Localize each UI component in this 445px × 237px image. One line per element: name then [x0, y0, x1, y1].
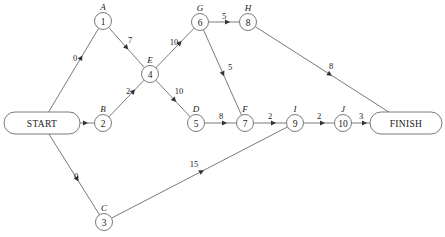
- edge-n7-to-n9: [254, 120, 287, 125]
- edge-weight-label: 10: [170, 37, 179, 47]
- node-number-label: 8: [246, 18, 251, 28]
- node-4[interactable]: 4E: [142, 55, 159, 83]
- edge-weight-label: 2: [317, 111, 321, 121]
- edge-n10-to-finish: [352, 120, 371, 125]
- node-number-label: 2: [101, 119, 106, 129]
- edge-n6-to-n7: [203, 30, 241, 115]
- edge-weight-label: 10: [175, 86, 184, 96]
- edge-weight-label: 2: [268, 111, 272, 121]
- edge-weight-label: 15: [190, 159, 199, 169]
- edge-start-to-n1: [48, 28, 98, 112]
- terminal-label: START: [27, 119, 57, 129]
- node-7[interactable]: 7F: [237, 104, 254, 132]
- arrow-head-icon: [320, 120, 325, 125]
- node-activity-letter: D: [192, 104, 200, 114]
- node-number-label: 7: [243, 119, 248, 129]
- node-activity-letter: B: [100, 104, 106, 114]
- arrow-head-icon: [326, 71, 332, 76]
- node-activity-letter: G: [197, 3, 204, 13]
- node-10[interactable]: 10J: [335, 104, 352, 132]
- edge-n4-to-n5: [156, 80, 190, 117]
- terminal-label: FINISH: [390, 119, 422, 129]
- node-activity-letter: C: [101, 203, 108, 213]
- edge-weight-label: 8: [219, 111, 223, 121]
- arrow-head-icon: [222, 120, 227, 125]
- node-number-label: 4: [148, 70, 153, 80]
- edge-n4-to-n6: [156, 28, 194, 68]
- arrow-head-icon: [362, 120, 367, 125]
- arrow-head-icon: [83, 120, 88, 125]
- node-number-label: 10: [338, 119, 348, 129]
- node-activity-letter: I: [293, 104, 298, 114]
- edge-n8-to-finish: [255, 27, 390, 114]
- node-5[interactable]: 5D: [188, 104, 205, 132]
- edge-line: [112, 127, 288, 218]
- node-1[interactable]: 1A: [95, 2, 112, 30]
- network-diagram-canvas: 000721010558223815 START1A2B3C4E5D6G7F8H…: [0, 0, 445, 237]
- node-activity-letter: E: [146, 55, 153, 65]
- node-number-label: 1: [101, 17, 106, 27]
- node-number-label: 9: [293, 119, 298, 129]
- node-number-label: 6: [198, 18, 203, 28]
- node-9[interactable]: 9I: [287, 104, 304, 132]
- arrow-head-icon: [271, 120, 276, 125]
- edge-n3-to-n9: [112, 127, 288, 218]
- node-2[interactable]: 2B: [95, 104, 112, 132]
- node-activity-letter: H: [244, 3, 252, 13]
- edge-weight-label: 7: [128, 35, 132, 45]
- edge-line: [255, 27, 390, 114]
- node-6[interactable]: 6G: [192, 3, 209, 31]
- node-activity-letter: J: [341, 104, 346, 114]
- edge-n1-to-n4: [109, 27, 145, 67]
- edge-weight-label: 2: [126, 86, 130, 96]
- node-3[interactable]: 3C: [96, 203, 113, 231]
- edge-line: [48, 28, 98, 112]
- edge-weight-label: 0: [73, 53, 77, 63]
- node-number-label: 5: [194, 119, 199, 129]
- edge-n5-to-n7: [205, 120, 237, 125]
- edge-start-to-n2: [80, 120, 95, 125]
- node-number-label: 3: [102, 218, 107, 228]
- edge-weight-label: 5: [228, 62, 232, 72]
- edge-weight-label: 8: [329, 61, 333, 71]
- node-finish[interactable]: FINISH: [370, 112, 442, 134]
- node-8[interactable]: 8H: [240, 3, 257, 31]
- node-activity-letter: F: [241, 104, 248, 114]
- edge-weight-label: 0: [74, 171, 78, 181]
- network-diagram-svg: 000721010558223815 START1A2B3C4E5D6G7F8H…: [0, 0, 445, 237]
- edge-weight-label: 3: [359, 111, 363, 121]
- edge-labels-layer: 000721010558223815: [70, 11, 363, 181]
- edge-line: [156, 28, 194, 68]
- node-activity-letter: A: [99, 2, 106, 12]
- edge-weight-label: 5: [222, 11, 226, 21]
- edge-n9-to-n10: [304, 120, 335, 125]
- node-start[interactable]: START: [4, 112, 80, 134]
